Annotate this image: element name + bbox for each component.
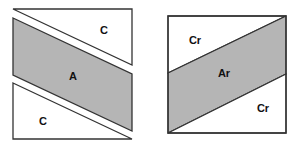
right-middle-label: Ar [218,67,231,79]
left-middle-label: A [69,70,77,82]
left-bottom-label: C [39,115,47,127]
right-bottom-label: Cr [257,102,270,114]
right-figure: Cr Ar Cr [168,16,286,133]
left-top-label: C [100,24,108,36]
right-top-label: Cr [189,34,202,46]
left-figure: C A C [13,9,132,139]
dissection-diagram: C A C Cr Ar Cr [0,0,298,145]
